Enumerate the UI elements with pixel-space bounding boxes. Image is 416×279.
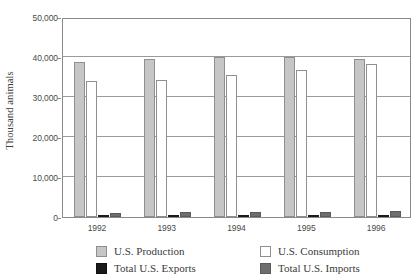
bar-group-1992 [74,19,121,217]
x-axis-tick-label-1996: 1996 [367,223,386,233]
bar-group-1995 [284,19,331,217]
bar-production-1992 [74,62,85,217]
bar-imports-1994 [250,212,261,217]
y-axis-tick-label: 40,000 [6,53,58,63]
y-axis-tick-label: 50,000 [6,13,58,23]
y-axis-tick-label: 30,000 [6,93,58,103]
bar-consumption-1994 [226,75,237,217]
legend-entry: U.S. Consumption [260,243,360,259]
x-axis-tick-label-1994: 1994 [227,223,246,233]
x-axis-tick-label-1992: 1992 [88,223,107,233]
bar-chart: Thousand animals 010,00020,00030,00040,0… [0,0,416,279]
bar-group-1996 [354,19,401,217]
bar-exports-1995 [308,215,319,217]
bar-production-1994 [214,57,225,217]
bar-imports-1995 [320,212,331,217]
bar-exports-1993 [168,215,179,217]
bar-imports-1993 [180,212,191,217]
legend-swatch-icon [96,246,107,257]
bar-production-1995 [284,57,295,217]
bar-consumption-1996 [366,64,377,217]
legend-label: U.S. Consumption [278,245,360,257]
y-axis-tick-label: 0 [6,213,58,223]
bar-production-1993 [144,59,155,217]
y-axis-tick-mark [57,218,61,219]
y-axis-tick-mark [57,98,61,99]
bar-consumption-1992 [86,81,97,217]
y-axis-ticks: 010,00020,00030,00040,00050,000 [0,18,58,218]
legend-swatch-icon [260,246,271,257]
legend-entry: Total U.S. Imports [260,260,360,276]
y-axis-tick-mark [57,178,61,179]
plot-area [62,18,411,218]
y-axis-tick-mark [57,138,61,139]
bar-exports-1996 [378,215,389,217]
bar-consumption-1993 [156,80,167,217]
legend-label: U.S. Production [114,245,185,257]
legend-swatch-icon [96,263,107,274]
bar-group-1994 [214,19,261,217]
bar-exports-1994 [238,215,249,217]
legend-entry: U.S. Production [96,243,185,259]
bar-imports-1996 [390,211,401,217]
x-axis-tick-label-1995: 1995 [297,223,316,233]
legend-entry: Total U.S. Exports [96,260,196,276]
y-axis-tick-mark [57,18,61,19]
legend-label: Total U.S. Imports [278,262,360,274]
chart-legend: U.S. ProductionU.S. ConsumptionTotal U.S… [96,243,396,277]
bar-imports-1992 [110,213,121,217]
y-axis-tick-label: 20,000 [6,133,58,143]
y-axis-tick-mark [57,58,61,59]
y-axis-tick-label: 10,000 [6,173,58,183]
legend-swatch-icon [260,263,271,274]
x-axis-tick-label-1993: 1993 [157,223,176,233]
bar-consumption-1995 [296,70,307,217]
x-axis-tick-labels: 19921993199419951996 [62,223,411,237]
bar-production-1996 [354,59,365,217]
legend-label: Total U.S. Exports [114,262,196,274]
bar-exports-1992 [98,215,109,217]
bar-group-1993 [144,19,191,217]
